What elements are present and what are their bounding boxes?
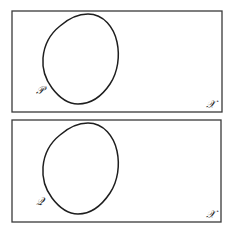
space-label-x: 𝒳 <box>206 98 219 111</box>
panel-top: 𝒫 𝒳 <box>12 11 222 112</box>
space-label-x: 𝒳 <box>206 208 219 221</box>
set-region-q <box>43 123 118 214</box>
panel-bottom: 𝒬 𝒳 <box>12 120 221 222</box>
set-label-q: 𝒬 <box>36 195 46 208</box>
set-label-p: 𝒫 <box>36 84 47 97</box>
diagram: 𝒫 𝒳 𝒬 𝒳 <box>0 0 232 237</box>
set-region-p <box>43 14 118 104</box>
